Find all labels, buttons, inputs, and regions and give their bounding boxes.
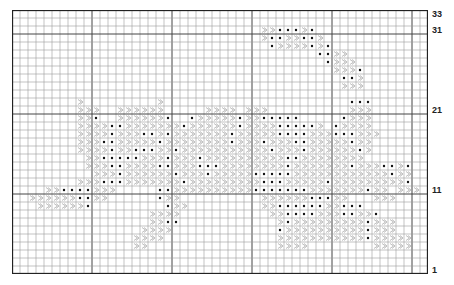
chevron-symbol	[94, 172, 99, 177]
chevron-symbol	[350, 124, 355, 129]
chevron-symbol	[158, 236, 163, 241]
chevron-symbol	[294, 180, 299, 185]
chevron-symbol	[54, 196, 59, 201]
chevron-symbol	[262, 36, 267, 41]
chevron-symbol	[126, 116, 131, 121]
chevron-symbol	[254, 156, 259, 161]
dot-symbol	[327, 53, 329, 55]
chevron-symbol	[366, 140, 371, 145]
chevron-symbol	[262, 204, 267, 209]
chevron-symbol	[350, 108, 355, 113]
chevron-symbol	[86, 156, 91, 161]
chevron-symbol	[246, 140, 251, 145]
dot-symbol	[63, 189, 65, 191]
dot-symbol	[271, 189, 273, 191]
dot-symbol	[303, 213, 305, 215]
chevron-symbol	[342, 236, 347, 241]
chevron-symbol	[126, 140, 131, 145]
dot-symbol	[303, 149, 305, 151]
chevron-symbol	[334, 220, 339, 225]
chevron-symbol	[342, 172, 347, 177]
dot-symbol	[111, 157, 113, 159]
chevron-symbol	[342, 52, 347, 57]
dot-symbol	[303, 37, 305, 39]
chevron-symbol	[182, 156, 187, 161]
chevron-symbol	[326, 164, 331, 169]
dot-symbol	[311, 125, 313, 127]
row-label: 11	[432, 186, 442, 195]
chevron-symbol	[302, 180, 307, 185]
dot-symbol	[207, 165, 209, 167]
chevron-symbol	[222, 156, 227, 161]
chevron-symbol	[310, 228, 315, 233]
chevron-symbol	[102, 172, 107, 177]
chevron-symbol	[142, 140, 147, 145]
chevron-symbol	[150, 124, 155, 129]
chevron-symbol	[246, 156, 251, 161]
dot-symbol	[303, 141, 305, 143]
chevron-symbol	[398, 236, 403, 241]
chevron-symbol	[134, 172, 139, 177]
chevron-symbol	[318, 220, 323, 225]
chevron-symbol	[318, 236, 323, 241]
chevron-symbol	[326, 148, 331, 153]
chevron-symbol	[126, 108, 131, 113]
chevron-symbol	[134, 116, 139, 121]
chevron-symbol	[342, 156, 347, 161]
chevron-symbol	[230, 124, 235, 129]
dot-symbol	[367, 221, 369, 223]
chevron-symbol	[358, 188, 363, 193]
chevron-symbol	[222, 148, 227, 153]
chevron-symbol	[86, 124, 91, 129]
chevron-symbol	[358, 156, 363, 161]
chevron-symbol	[334, 172, 339, 177]
chevron-symbol	[102, 188, 107, 193]
chevron-symbol	[326, 132, 331, 137]
dot-symbol	[287, 165, 289, 167]
chevron-symbol	[270, 124, 275, 129]
chevron-symbol	[286, 228, 291, 233]
dot-symbol	[271, 117, 273, 119]
chevron-symbol	[374, 188, 379, 193]
chevron-symbol	[70, 196, 75, 201]
row-label: 31	[432, 26, 442, 35]
chevron-symbol	[390, 180, 395, 185]
chevron-symbol	[94, 156, 99, 161]
chevron-symbol	[374, 180, 379, 185]
dot-symbol	[271, 45, 273, 47]
dot-symbol	[87, 197, 89, 199]
chevron-symbol	[254, 148, 259, 153]
chevron-symbol	[86, 164, 91, 169]
dot-symbol	[167, 157, 169, 159]
chevron-symbol	[350, 188, 355, 193]
dot-symbol	[207, 173, 209, 175]
chevron-symbol	[334, 212, 339, 217]
chevron-symbol	[294, 244, 299, 249]
chevron-symbol	[350, 84, 355, 89]
dot-symbol	[271, 181, 273, 183]
chevron-symbol	[278, 156, 283, 161]
chevron-symbol	[246, 164, 251, 169]
chevron-symbol	[94, 108, 99, 113]
dot-symbol	[287, 221, 289, 223]
chevron-symbol	[126, 172, 131, 177]
chevron-symbol	[174, 140, 179, 145]
chevron-symbol	[158, 212, 163, 217]
chevron-symbol	[238, 188, 243, 193]
chevron-symbol	[358, 108, 363, 113]
chevron-symbol	[174, 212, 179, 217]
chevron-symbol	[382, 188, 387, 193]
row-label: 33	[432, 10, 442, 19]
dot-symbol	[143, 133, 145, 135]
chevron-symbol	[326, 188, 331, 193]
chevron-symbol	[222, 140, 227, 145]
chevron-symbol	[334, 204, 339, 209]
chevron-symbol	[366, 164, 371, 169]
chevron-symbol	[230, 188, 235, 193]
chevron-symbol	[254, 108, 259, 113]
chevron-symbol	[358, 212, 363, 217]
dot-symbol	[279, 189, 281, 191]
dot-symbol	[295, 213, 297, 215]
dot-symbol	[279, 117, 281, 119]
chevron-symbol	[70, 204, 75, 209]
